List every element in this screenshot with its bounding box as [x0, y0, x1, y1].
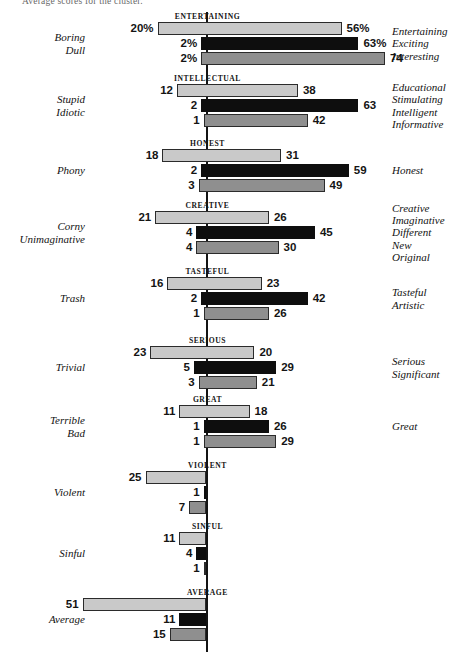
right-label: Great: [392, 420, 417, 432]
chart-canvas: Average scores for the cluster. ENTERTAI…: [0, 0, 463, 652]
bar-mid: [199, 179, 325, 192]
bar-row: 51: [0, 597, 463, 612]
bar-dark: [194, 361, 276, 374]
group-right-labels: EducationalStimulatingIntelligentInforma…: [392, 81, 446, 131]
bar-row: 7: [0, 500, 463, 515]
group-left-labels: CornyUnimaginative: [20, 220, 85, 245]
bar-row: 11: [0, 531, 463, 546]
bar-value-left: 2: [191, 163, 197, 178]
right-label: Intelligent: [392, 106, 446, 118]
right-label: New: [392, 239, 445, 251]
bar-value-right: 30: [284, 240, 297, 255]
left-label: Stupid: [56, 93, 85, 105]
bar-value-left: 2%: [181, 51, 198, 66]
right-label: Significant: [392, 368, 440, 380]
bar-value-left: 3: [188, 375, 194, 390]
group-left-labels: BoringDull: [54, 31, 85, 56]
left-label: Sinful: [59, 547, 85, 559]
group-title: SERIOUS: [0, 336, 463, 345]
bar-value-right: 21: [262, 375, 275, 390]
bar-value-left: 16: [150, 276, 163, 291]
bar-value-right: 49: [330, 178, 343, 193]
group-left-labels: Violent: [54, 486, 85, 498]
group-right-labels: TastefulArtistic: [392, 286, 426, 311]
bar-dark: [201, 37, 358, 50]
bar-value-left: 51: [66, 597, 79, 612]
bar-value-left: 1: [193, 113, 199, 128]
group-left-labels: Average: [49, 613, 85, 625]
group-title: ENTERTAINING: [0, 12, 463, 21]
right-label: Imaginative: [392, 214, 445, 226]
bar-value-right: 63: [363, 98, 376, 113]
bar-value-right: 42: [313, 113, 326, 128]
group-right-labels: EntertainingExcitingInteresting: [392, 25, 448, 62]
left-label: Idiotic: [56, 106, 85, 118]
bar-dark: [201, 292, 307, 305]
left-label: Dull: [54, 44, 85, 56]
bar-value-left: 1: [193, 419, 199, 434]
bar-value-left: 12: [160, 83, 173, 98]
bar-light: [179, 532, 206, 545]
bar-dark: [196, 547, 206, 560]
group-left-labels: TerribleBad: [50, 414, 85, 439]
bar-value-left: 2%: [181, 36, 198, 51]
left-label: Trivial: [56, 361, 85, 373]
bar-value-right: 56%: [347, 21, 370, 36]
bar-value-left: 3: [188, 178, 194, 193]
bar-value-left: 11: [163, 404, 175, 419]
bar-mid: [189, 501, 206, 514]
bar-value-right: 31: [286, 148, 299, 163]
bar-value-right: 42: [313, 291, 326, 306]
group-left-labels: Trash: [60, 292, 85, 304]
bar-value-left: 11: [163, 531, 175, 546]
bar-value-left: 4: [186, 546, 192, 561]
group-right-labels: SeriousSignificant: [392, 355, 440, 380]
bar-dark: [201, 164, 349, 177]
right-label: Serious: [392, 355, 440, 367]
bar-light: [162, 149, 281, 162]
bar-value-left: 4: [186, 240, 192, 255]
bar-light: [179, 405, 249, 418]
group-title: VIOLENT: [0, 461, 463, 470]
right-label: Educational: [392, 81, 446, 93]
bar-value-right: 20: [259, 345, 272, 360]
bar-value-left: 2: [191, 98, 197, 113]
bar-value-left: 18: [146, 148, 159, 163]
bar-value-left: 11: [163, 612, 175, 627]
bar-value-left: 1: [193, 434, 199, 449]
bar-value-left: 1: [193, 561, 199, 576]
bar-mid: [204, 307, 269, 320]
bar-light: [83, 598, 206, 611]
right-label: Original: [392, 251, 445, 263]
bar-value-left: 20%: [131, 21, 154, 36]
right-label: Different: [392, 226, 445, 238]
bar-value-left: 21: [138, 210, 151, 225]
bar-row: 25: [0, 470, 463, 485]
bar-mid: [170, 628, 206, 641]
left-label: Terrible: [50, 414, 85, 426]
bar-dark: [179, 613, 206, 626]
right-label: Informative: [392, 118, 446, 130]
bar-value-right: 26: [274, 210, 287, 225]
right-label: Exciting: [392, 37, 448, 49]
left-label: Phony: [57, 164, 85, 176]
right-label: Artistic: [392, 299, 426, 311]
bar-value-right: 29: [281, 434, 294, 449]
bar-value-left: 15: [153, 627, 166, 642]
bar-row: 1831: [0, 148, 463, 163]
group-left-labels: Trivial: [56, 361, 85, 373]
bar-value-left: 1: [193, 306, 199, 321]
group-right-labels: CreativeImaginativeDifferentNewOriginal: [392, 202, 445, 264]
bar-value-left: 2: [191, 291, 197, 306]
right-label: Honest: [392, 164, 423, 176]
right-label: Entertaining: [392, 25, 448, 37]
bar-value-left: 5: [184, 360, 190, 375]
bar-value-left: 4: [186, 225, 192, 240]
left-label: Bad: [50, 427, 85, 439]
left-label: Violent: [54, 486, 85, 498]
bar-value-right: 26: [274, 306, 287, 321]
group-left-labels: StupidIdiotic: [56, 93, 85, 118]
right-label: Interesting: [392, 50, 448, 62]
group-title: GREAT: [0, 395, 463, 404]
left-label: Trash: [60, 292, 85, 304]
